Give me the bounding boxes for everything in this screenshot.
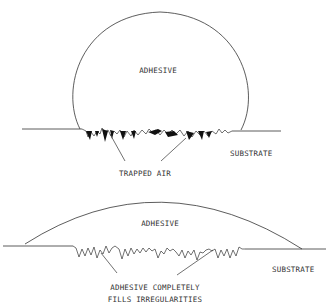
trapped-air-label: TRAPPED AIR — [119, 169, 171, 178]
top-adhesive-label: ADHESIVE — [139, 66, 177, 75]
fills-irregularities-label-line2: FILLS IRREGULARITIES — [108, 295, 203, 304]
bottom-figure-good-wetting: ADHESIVE SUBSTRATE ADHESIVE COMPLETELY F… — [3, 202, 326, 304]
fills-irregularities-label-line1: ADHESIVE COMPLETELY — [110, 283, 200, 292]
adhesion-diagram: ADHESIVE SUBSTRATE TRAPPED AIR ADHESIVE … — [0, 0, 330, 308]
top-callout-leader-right — [161, 138, 186, 161]
top-substrate-label: SUBSTRATE — [230, 149, 273, 158]
bottom-adhesive-label: ADHESIVE — [141, 219, 179, 228]
bottom-rough-interface-filled — [73, 246, 245, 260]
top-figure-poor-wetting: ADHESIVE SUBSTRATE TRAPPED AIR — [22, 12, 281, 178]
bottom-callout-leader-left — [101, 253, 117, 273]
bottom-substrate-label: SUBSTRATE — [272, 265, 315, 274]
